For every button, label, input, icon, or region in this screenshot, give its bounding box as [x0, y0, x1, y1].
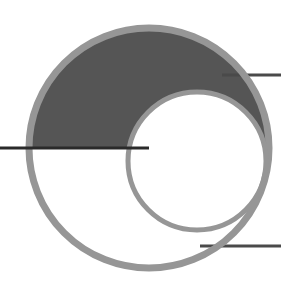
geometry-diagram: Two overlapping circles with shaded regi…: [0, 0, 281, 290]
figure-root: Two overlapping circles with shaded regi…: [0, 0, 281, 290]
